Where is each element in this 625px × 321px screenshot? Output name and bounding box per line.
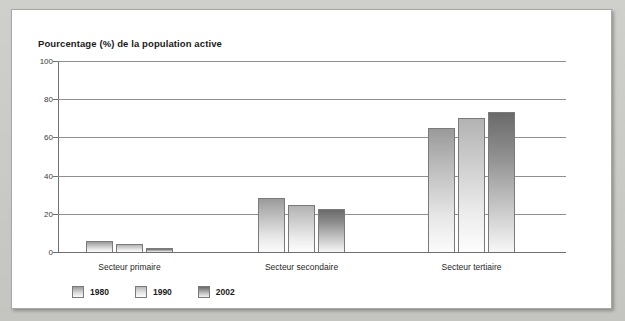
bar-1980-2 [258, 198, 285, 252]
bar-1990-2 [288, 205, 315, 252]
y-tick-label-80: 80 [44, 95, 53, 104]
y-tick-label-40: 40 [44, 171, 53, 180]
legend-swatch-1990 [135, 286, 147, 298]
category-label-3: Secteur tertiaire [442, 262, 502, 272]
legend-item-1980: 1980 [72, 286, 109, 298]
legend-swatch-1980 [72, 286, 84, 298]
bar-1990-3 [458, 118, 485, 252]
bar-group-1 [86, 61, 173, 252]
legend-item-2002: 2002 [198, 286, 235, 298]
chart-legend: 198019902002 [72, 286, 235, 298]
legend-item-1990: 1990 [135, 286, 172, 298]
category-label-1: Secteur primaire [98, 262, 160, 272]
category-label-2: Secteur secondaire [265, 262, 338, 272]
chart-panel: Pourcentage (%) de la population active … [11, 9, 612, 309]
legend-swatch-2002 [198, 286, 210, 298]
bar-2002-2 [318, 209, 345, 252]
y-tick-mark-0 [53, 252, 58, 253]
plot-area [58, 61, 566, 252]
bar-1980-1 [86, 241, 113, 252]
y-tick-mark-60 [53, 137, 58, 138]
y-tick-mark-40 [53, 176, 58, 177]
y-tick-mark-20 [53, 214, 58, 215]
legend-label-2002: 2002 [216, 287, 235, 297]
y-tick-mark-100 [53, 61, 58, 62]
bar-1980-3 [428, 128, 455, 252]
bar-group-3 [428, 61, 515, 252]
chart-title: Pourcentage (%) de la population active [38, 38, 222, 49]
x-axis-baseline [58, 252, 566, 253]
y-tick-label-60: 60 [44, 133, 53, 142]
bar-2002-3 [488, 112, 515, 252]
y-tick-label-100: 100 [40, 57, 53, 66]
y-tick-label-20: 20 [44, 209, 53, 218]
y-tick-mark-80 [53, 99, 58, 100]
y-axis-labels: 100806040200 [12, 61, 53, 252]
legend-label-1990: 1990 [153, 287, 172, 297]
legend-label-1980: 1980 [90, 287, 109, 297]
bar-group-2 [258, 61, 345, 252]
bar-1990-1 [116, 244, 143, 252]
